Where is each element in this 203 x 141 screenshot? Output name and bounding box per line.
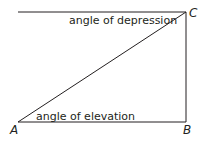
hypotenuse-ac xyxy=(18,12,186,122)
triangle-diagram: angle of depression angle of elevation C… xyxy=(0,0,203,141)
point-c-label: C xyxy=(189,6,198,20)
angle-of-depression-label: angle of depression xyxy=(69,14,177,27)
angle-of-elevation-label: angle of elevation xyxy=(36,110,135,123)
point-a-label: A xyxy=(9,123,18,137)
point-b-label: B xyxy=(183,123,191,137)
